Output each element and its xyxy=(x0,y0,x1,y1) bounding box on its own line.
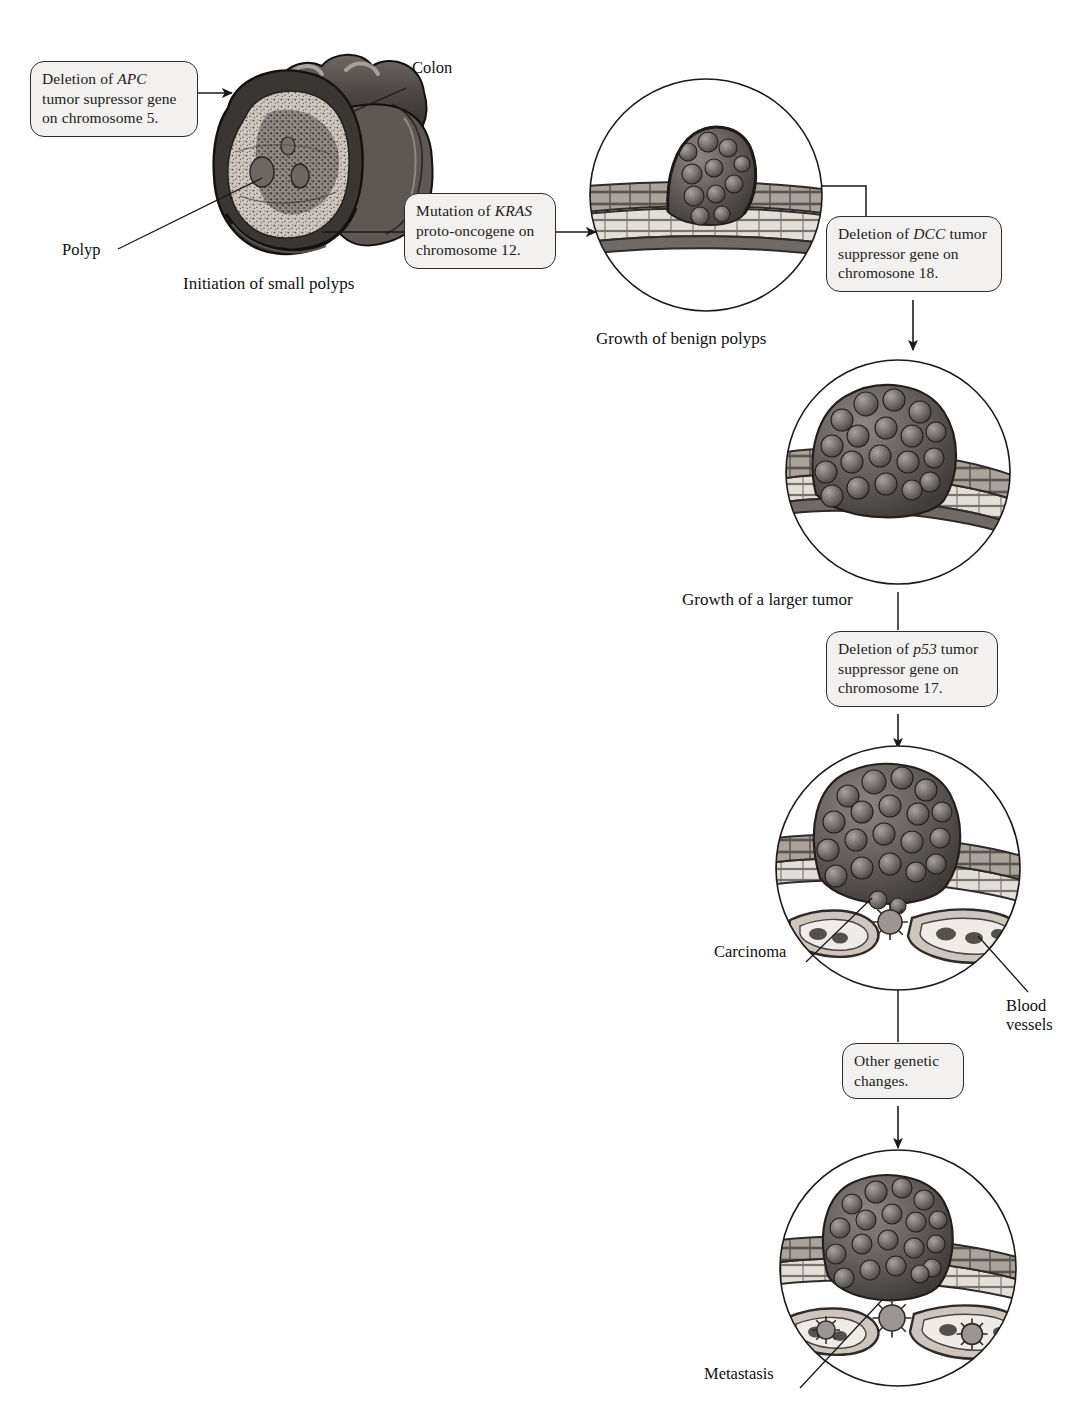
caption-growth-of-a-larger-tumor: Growth of a larger tumor xyxy=(682,590,853,610)
callout-dcc: Deletion of DCC tumor suppressor gene on… xyxy=(826,216,1002,292)
label-blood-vessels-line1: Blood xyxy=(1006,996,1046,1015)
label-carcinoma: Carcinoma xyxy=(714,942,786,962)
panel-benign-polyp xyxy=(586,76,830,316)
callout-apc-before: Deletion of xyxy=(42,70,117,87)
callout-apc-gene: APC xyxy=(117,70,147,87)
callout-kras-gene: KRAS xyxy=(495,202,532,219)
leader-blood-vessels xyxy=(978,936,1028,992)
label-blood-vessels-line2: vessels xyxy=(1006,1015,1053,1034)
callout-kras-after: proto-oncogene on chromosome 12. xyxy=(416,222,534,259)
callout-p53: Deletion of p53 tumor suppressor gene on… xyxy=(826,631,998,707)
panel-carcinoma xyxy=(772,742,1028,998)
callout-dcc-gene: DCC xyxy=(913,225,945,242)
caption-initiation-of-small-polyps: Initiation of small polyps xyxy=(183,274,354,294)
callout-other-genetic-changes: Other genetic changes. xyxy=(842,1043,964,1099)
callout-dcc-before: Deletion of xyxy=(838,225,913,242)
callout-p53-gene: p53 xyxy=(913,640,937,657)
connector-panelA-to-dcc xyxy=(822,186,866,216)
panel-larger-tumor xyxy=(782,356,1018,592)
colon-segment-illustration xyxy=(214,55,433,254)
panel-metastasis xyxy=(776,1146,1027,1394)
label-metastasis: Metastasis xyxy=(704,1364,774,1384)
label-blood-vessels: Blood vessels xyxy=(1006,996,1066,1035)
caption-growth-of-benign-polyps: Growth of benign polyps xyxy=(596,329,766,349)
callout-other-text: Other genetic changes. xyxy=(854,1052,939,1089)
callout-p53-before: Deletion of xyxy=(838,640,913,657)
callout-kras: Mutation of KRAS proto-oncogene on chrom… xyxy=(404,193,556,269)
figure-canvas: Deletion of APC tumor supressor gene on … xyxy=(0,0,1073,1424)
label-colon: Colon xyxy=(412,58,452,78)
callout-apc: Deletion of APC tumor supressor gene on … xyxy=(30,61,198,137)
callout-kras-before: Mutation of xyxy=(416,202,495,219)
callout-apc-after: tumor supressor gene on chromosome 5. xyxy=(42,90,177,127)
label-polyp: Polyp xyxy=(62,240,101,260)
